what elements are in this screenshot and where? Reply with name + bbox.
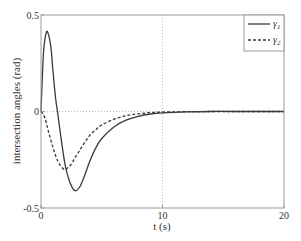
y-tick-label: -0.5 <box>23 203 39 214</box>
x-tick-label: 20 <box>279 210 289 221</box>
y-tick-label: 0 <box>34 106 39 117</box>
x-tick-label: 0 <box>39 210 44 221</box>
legend: γ1γ2 <box>244 15 284 51</box>
y-tick-label: 0.5 <box>27 10 40 21</box>
line-chart: 0.50-0.5 01020 t (s) intersection angles… <box>0 0 301 241</box>
x-axis-label: t (s) <box>153 220 171 233</box>
y-axis-label: intersection angles (rad) <box>10 58 23 165</box>
